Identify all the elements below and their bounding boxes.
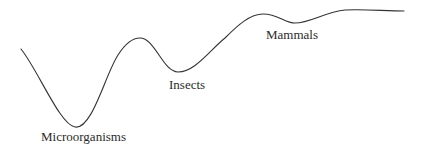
insects-label: Insects [169, 78, 205, 91]
landscape-curve [21, 10, 404, 127]
microorganisms-label: Microorganisms [41, 130, 126, 143]
mammals-label: Mammals [266, 28, 318, 41]
